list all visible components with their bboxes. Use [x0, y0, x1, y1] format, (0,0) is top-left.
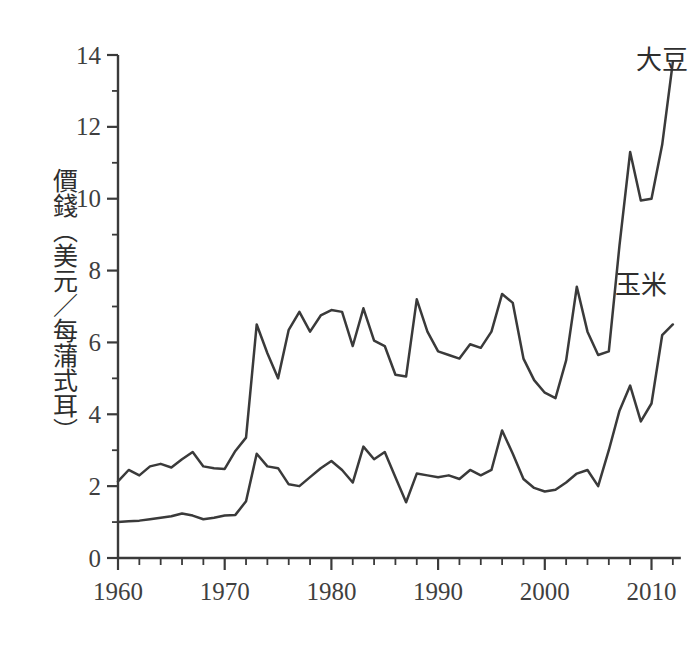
y-tick-label: 6 — [89, 329, 102, 356]
data-series-group — [118, 62, 673, 522]
series-label-大豆: 大豆 — [636, 45, 688, 75]
y-tick-label: 8 — [89, 257, 102, 284]
y-tick-label: 10 — [76, 185, 101, 212]
x-tick-label: 2010 — [627, 578, 677, 605]
x-axis-tick-labels: 196019701980199020002010 — [93, 578, 677, 605]
y-tick-label: 4 — [89, 401, 102, 428]
series-line-大豆 — [118, 62, 673, 481]
x-tick-label: 1960 — [93, 578, 143, 605]
y-tick-label: 0 — [89, 545, 102, 572]
y-tick-label: 14 — [76, 42, 102, 69]
x-tick-label: 1980 — [306, 578, 356, 605]
series-label-玉米: 玉米 — [615, 270, 667, 300]
x-tick-label: 1990 — [413, 578, 463, 605]
x-tick-label: 2000 — [520, 578, 570, 605]
series-inline-labels: 大豆玉米 — [615, 45, 688, 300]
chart-plot-area: 02468101214 196019701980199020002010 大豆玉… — [0, 0, 695, 648]
series-line-玉米 — [118, 324, 673, 522]
y-axis-tick-labels: 02468101214 — [76, 42, 102, 572]
y-tick-label: 12 — [76, 113, 101, 140]
tick-marks-group — [107, 55, 673, 570]
price-chart: 價錢（美元／每蒲式耳） 02468101214 1960197019801990… — [0, 0, 695, 648]
x-tick-label: 1970 — [200, 578, 250, 605]
y-tick-label: 2 — [89, 473, 102, 500]
